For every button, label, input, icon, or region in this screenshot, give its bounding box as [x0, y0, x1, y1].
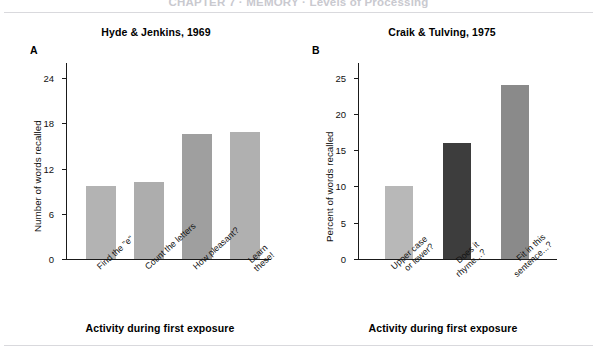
y-tick-label-b-4: 20 [335, 108, 346, 119]
panel-letter-b: B [312, 44, 320, 56]
y-tick-label-b-0: 0 [341, 254, 346, 265]
bar-b-2 [501, 85, 529, 259]
chart-title-a: Hyde & Jenkins, 1969 [0, 26, 298, 38]
y-tick-label-b-3: 15 [335, 145, 346, 156]
bar-b-1 [443, 143, 471, 259]
bar-series-a [67, 63, 271, 259]
plot-area-a: 06121824 Find the "e"Count the lettersHo… [66, 63, 271, 260]
y-axis-title-b: Percent of words recalled [324, 131, 335, 242]
bar-series-b [359, 63, 557, 259]
chart-panel-a: Hyde & Jenkins, 1969 A Number of words r… [0, 0, 298, 345]
plot-area-b: 0510152025 Upper caseor lower?Does itrhy… [358, 63, 557, 260]
y-tick-label-a-0: 0 [49, 254, 54, 265]
y-tick-label-b-5: 25 [335, 72, 346, 83]
y-tick-label-b-1: 5 [341, 217, 346, 228]
chart-panel-b: Craik & Tulving, 1975 B Percent of words… [290, 0, 588, 345]
chart-title-b: Craik & Tulving, 1975 [290, 26, 588, 38]
y-tick-label-a-1: 6 [49, 208, 54, 219]
y-tick-label-a-4: 24 [43, 73, 54, 84]
y-tick-label-b-2: 10 [335, 181, 346, 192]
x-axis-title-b: Activity during first exposure [290, 322, 588, 334]
panel-letter-a: A [30, 44, 38, 56]
bar-a-3 [230, 132, 260, 259]
y-axis-title-a: Number of words recalled [32, 120, 43, 232]
x-axis-labels-b: Upper caseor lower?Does itrhyme...?Fit i… [359, 259, 557, 321]
x-axis-title-a: Activity during first exposure [0, 322, 298, 334]
bar-a-2 [182, 134, 212, 259]
figure-page: CHAPTER 7 · MEMORY · Levels of Processin… [0, 0, 597, 363]
y-tick-label-a-2: 12 [43, 163, 54, 174]
rule-bottom [4, 345, 593, 346]
x-axis-labels-a: Find the "e"Count the lettersHow pleasan… [67, 259, 271, 321]
y-tick-label-a-3: 18 [43, 118, 54, 129]
